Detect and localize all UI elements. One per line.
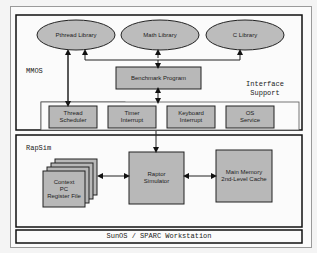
host-label: SunOS / SPARC Workstation [16,232,302,240]
mmos-label: MMOS [26,67,43,75]
thread-scheduler-node: ThreadScheduler [49,106,97,128]
benchmark-program-node: Benchmark Program [116,67,201,89]
interface-support-label: Interface Support [230,80,300,98]
timer-interrupt-node: TimerInterrupt [108,106,156,128]
context-register-file-node: ContextPCRegister File [43,171,85,207]
math-library-node: Math Library [121,28,199,42]
c-library-node: C Library [206,28,284,42]
os-service-node: OSService [226,106,274,128]
rapsim-label: RapSim [26,144,51,152]
keyboard-interrupt-node: KeyboardInterrupt [167,106,215,128]
pthread-library-node: Pthread Library [37,28,115,42]
main-memory-node: Main Memory2nd-Level Cache [216,150,272,202]
raptor-simulator-node: RaptorSimulator [129,152,184,204]
